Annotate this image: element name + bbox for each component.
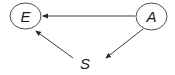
node-a: A [136, 3, 167, 30]
node-a-label: A [145, 8, 156, 25]
node-s: S [80, 55, 90, 72]
node-s-label: S [80, 55, 90, 72]
node-e-label: E [20, 8, 31, 25]
node-e: E [10, 3, 41, 29]
edge-a-to-s [106, 29, 143, 58]
causal-diagram: E A S [0, 0, 175, 75]
edge-s-to-e [36, 31, 73, 58]
